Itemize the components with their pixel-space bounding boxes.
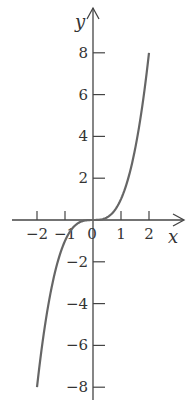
y-tick-label: −8 [66,378,88,396]
y-tick-label: 8 [78,44,88,62]
cubic-function-chart: −2−1012−8−6−4−22468 x y [0,0,193,412]
y-tick-label: −6 [66,336,88,354]
y-tick-label: 6 [78,86,88,104]
y-tick-label: −2 [66,253,88,271]
axes [12,8,184,400]
y-tick-label: 2 [78,169,88,187]
y-tick-label: 4 [78,127,88,145]
x-tick-label: −2 [26,225,48,243]
x-tick-label: 2 [144,225,154,243]
y-axis-label: y [74,11,86,32]
x-axis-label: x [168,226,178,247]
x-tick-label: 1 [116,225,126,243]
y-tick-label: −4 [66,295,88,313]
x-tick-label: 0 [87,225,97,243]
